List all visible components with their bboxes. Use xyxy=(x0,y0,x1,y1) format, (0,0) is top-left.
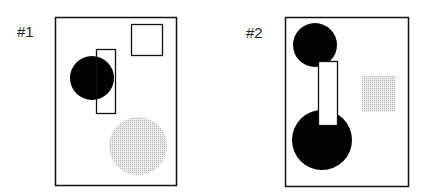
panel-2-tall-rect xyxy=(319,62,338,126)
panel-2-top-circle xyxy=(293,23,337,67)
panel-2 xyxy=(286,18,409,187)
panel-2-gray-square xyxy=(362,76,395,112)
panel-1-black-circle xyxy=(70,56,114,100)
panel-1 xyxy=(56,18,177,186)
panel-1-gray-circle xyxy=(109,117,167,175)
panel-1-square xyxy=(132,25,163,56)
diagram-canvas xyxy=(0,0,422,194)
